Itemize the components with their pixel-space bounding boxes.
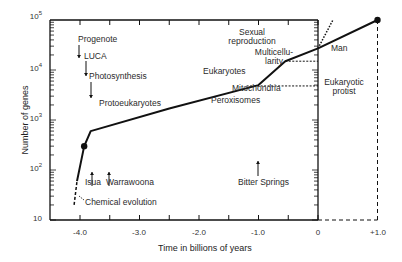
leader-chemical-evolution xyxy=(79,196,84,200)
label-isua: Isua xyxy=(85,178,101,187)
arrow-warrawoona-head xyxy=(107,172,111,175)
y-tick-10: 10 xyxy=(20,214,42,223)
x-tick-m3: -3.0 xyxy=(132,228,146,237)
arrow-progenote-head xyxy=(77,55,81,58)
label-protoeukaryotes: Protoeukaryotes xyxy=(99,99,161,108)
label-progenote: Progenote xyxy=(78,35,117,44)
y-tick-1e2: 102 xyxy=(20,164,42,173)
y-tick-1e4: 104 xyxy=(20,64,42,73)
label-peroxisomes: Peroxisomes xyxy=(211,96,260,105)
label-warrawoona: Warrawoona xyxy=(106,178,154,187)
label-man: Man xyxy=(331,44,348,53)
arrow-luca-head xyxy=(84,73,88,76)
data-marker-1 xyxy=(374,17,380,23)
label-luca: LUCA xyxy=(84,52,107,61)
x-tick-zero: 0 xyxy=(316,228,320,237)
label-multicellularity: Multicellu-larity xyxy=(244,48,304,66)
series-line-0 xyxy=(74,181,77,205)
label-photosynthesis: Photosynthesis xyxy=(89,72,147,81)
label-eukaryotes: Eukaryotes xyxy=(203,67,246,76)
label-chemical-evolution: Chemical evolution xyxy=(85,198,157,207)
label-mitochondria: Mitochondria xyxy=(232,84,281,93)
arrow-photosynthesis-head xyxy=(89,95,93,98)
label-sexual-reproduction: Sexualreproduction xyxy=(222,28,282,46)
y-tick-1e5: 105 xyxy=(20,12,42,21)
data-marker-0 xyxy=(81,143,87,149)
arrow-isua-head xyxy=(90,172,94,175)
x-tick-m2: -2.0 xyxy=(192,228,206,237)
label-bitter-springs: Bitter Springs xyxy=(238,178,289,187)
label-eukaryotic-protist: Eukaryoticprotist xyxy=(318,78,370,96)
gene-evolution-chart xyxy=(0,0,402,262)
y-axis-title: Number of genes xyxy=(20,75,30,165)
x-tick-m1: -1.0 xyxy=(251,228,265,237)
arrow-bitter-springs-head xyxy=(256,161,260,164)
x-tick-p1: +1.0 xyxy=(370,228,386,237)
x-tick-m4: -4.0 xyxy=(73,228,87,237)
x-axis-title: Time in billions of years xyxy=(158,243,252,253)
